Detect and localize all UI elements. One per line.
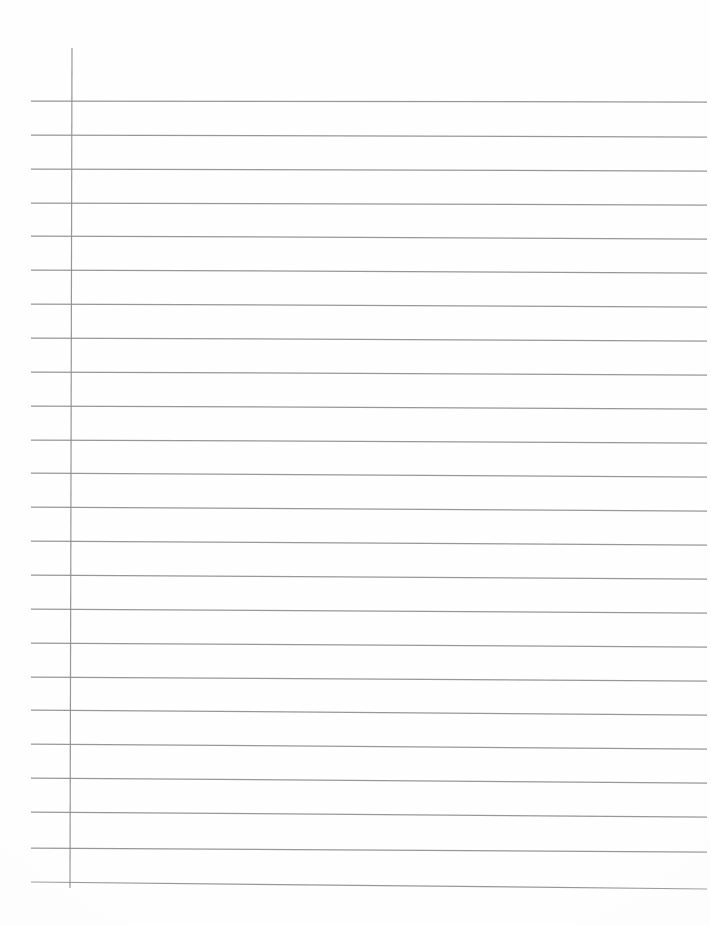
- lined-paper-page: [0, 0, 710, 925]
- paper-surface: [0, 0, 710, 925]
